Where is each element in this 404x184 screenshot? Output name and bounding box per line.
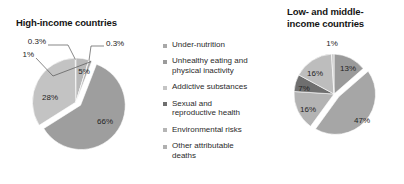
square-swatch-icon (163, 128, 167, 132)
slice-label-sexual-reproductive-health: 0.3% (106, 39, 124, 48)
slice-label-other-attributable-deaths: 47% (354, 116, 370, 125)
square-swatch-icon (163, 44, 167, 48)
low-and-middle-income-chart-panel: Low- and middle- income countries 1% 13%… (276, 0, 404, 184)
slice-label-addictive-substances: 1% (326, 39, 338, 48)
square-swatch-icon (163, 145, 167, 149)
high-income-chart-title: High-income countries (16, 17, 117, 29)
square-swatch-icon (163, 102, 167, 106)
chart-legend: Under-nutrition Unhealthy eating and phy… (163, 40, 275, 167)
slice-label-unhealthy-eating: 16% (307, 69, 323, 78)
slice-label-other-attributable-deaths: 66% (97, 117, 113, 126)
low-and-middle-income-chart-title: Low- and middle- income countries (287, 6, 364, 29)
low-and-middle-income-pie-svg: 1% 13% 16% 7% 16% 47% (282, 38, 402, 148)
high-income-chart-panel: High-income countries 0.3% 0.3% (0, 0, 160, 184)
leader-line-sexual-reproductive-health (89, 46, 104, 61)
slice-label-sexual-reproductive-health: 7% (298, 84, 310, 93)
square-swatch-icon (163, 86, 167, 90)
high-income-pie-svg: 0.3% 0.3% 1% 5% 28% 66% (8, 36, 158, 156)
legend-item-addictive-substances[interactable]: Addictive substances (163, 82, 275, 92)
legend-item-label: Unhealthy eating and physical inactivity (172, 56, 248, 76)
square-swatch-icon (163, 60, 167, 64)
slice-label-under-nutrition: 13% (340, 64, 356, 73)
legend-item-label: Under-nutrition (172, 40, 225, 50)
legend-item-sexual-reproductive-health[interactable]: Sexual and reproductive health (163, 99, 275, 119)
low-and-middle-income-pie-chart: 1% 13% 16% 7% 16% 47% (282, 38, 402, 148)
slice-label-environmental-risks: 1% (22, 50, 34, 59)
slice-label-environmental-risks: 16% (300, 105, 316, 114)
leader-line-under-nutrition (48, 45, 75, 60)
high-income-pie-chart: 0.3% 0.3% 1% 5% 28% 66% (8, 36, 158, 156)
legend-item-under-nutrition[interactable]: Under-nutrition (163, 40, 275, 50)
slice-label-addictive-substances: 5% (78, 67, 90, 76)
legend-item-label: Environmental risks (172, 125, 242, 135)
legend-item-other-attributable-deaths[interactable]: Other attributable deaths (163, 141, 275, 161)
legend-item-label: Other attributable deaths (172, 141, 234, 161)
legend-item-label: Sexual and reproductive health (172, 99, 240, 119)
legend-item-unhealthy-eating[interactable]: Unhealthy eating and physical inactivity (163, 56, 275, 76)
slice-label-unhealthy-eating: 28% (42, 93, 58, 102)
slice-label-under-nutrition: 0.3% (28, 37, 46, 46)
legend-item-environmental-risks[interactable]: Environmental risks (163, 125, 275, 135)
legend-item-label: Addictive substances (172, 82, 247, 92)
